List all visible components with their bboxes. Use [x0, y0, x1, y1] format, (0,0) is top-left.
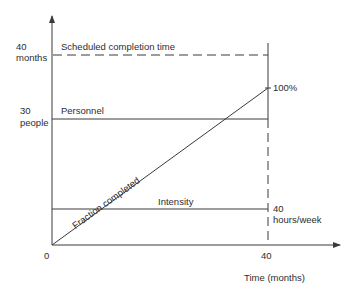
percent-label: 100% [273, 82, 297, 93]
y-label-people-value: 30 [20, 105, 31, 116]
scheduled-completion-label: Scheduled completion time [61, 41, 175, 52]
y-label-months-unit: months [16, 52, 47, 63]
origin-label: 0 [44, 250, 49, 261]
hours-unit-label: hours/week [273, 214, 322, 225]
x-tick-40-label: 40 [261, 250, 272, 261]
personnel-label: Personnel [61, 105, 104, 116]
intensity-label: Intensity [158, 196, 193, 207]
diagram-canvas [0, 0, 362, 291]
y-label-months-value: 40 [16, 41, 27, 52]
hours-value-label: 40 [273, 203, 284, 214]
y-label-people-unit: people [20, 117, 49, 128]
x-axis-title: Time (months) [244, 272, 305, 283]
